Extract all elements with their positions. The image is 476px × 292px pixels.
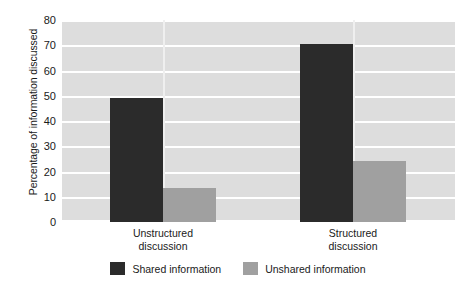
x-tick-label-line: discussion <box>83 240 243 253</box>
legend-item-unshared: Unshared information <box>243 262 365 275</box>
legend-swatch-icon <box>243 262 258 275</box>
y-tick-label: 0 <box>26 217 56 228</box>
y-tick-label: 40 <box>26 116 56 127</box>
bar-unshared-1 <box>163 188 216 222</box>
x-tick-label-line: Unstructured <box>83 227 243 240</box>
y-tick-label: 50 <box>26 90 56 101</box>
y-tick-label: 80 <box>26 15 56 26</box>
y-tick-label: 30 <box>26 141 56 152</box>
y-tick-label: 20 <box>26 166 56 177</box>
x-tick-label: Unstructureddiscussion <box>83 227 243 253</box>
legend-label: Shared information <box>132 263 221 275</box>
gridline <box>62 71 455 73</box>
y-axis-tick-labels: 01020304050607080 <box>26 0 56 292</box>
legend-item-shared: Shared information <box>110 262 221 275</box>
gridline <box>62 20 455 22</box>
x-tick-label-line: discussion <box>273 240 433 253</box>
legend-swatch-icon <box>110 262 125 275</box>
x-tick-label-line: Structured <box>273 227 433 240</box>
x-tick-label: Structureddiscussion <box>273 227 433 253</box>
y-tick-label: 70 <box>26 40 56 51</box>
plot-area <box>62 20 455 222</box>
bar-unshared-2 <box>353 161 406 222</box>
y-tick-label: 60 <box>26 65 56 76</box>
bar-shared-2 <box>300 44 353 222</box>
y-tick-label: 10 <box>26 191 56 202</box>
bar-shared-1 <box>110 98 163 222</box>
legend-label: Unshared information <box>265 263 365 275</box>
bar-chart-figure: Percentage of information discussed 0102… <box>0 0 476 292</box>
gridline <box>62 45 455 47</box>
chart-legend: Shared informationUnshared information <box>0 262 476 275</box>
